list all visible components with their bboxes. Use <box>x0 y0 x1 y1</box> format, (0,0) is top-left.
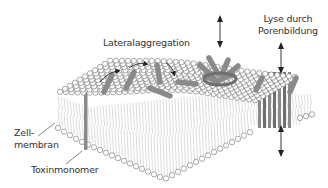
lipid-tail <box>166 99 168 175</box>
lipid-tail <box>214 95 216 149</box>
label-cell-membrane-line2: membran <box>14 139 59 151</box>
lipid-tail <box>181 98 183 167</box>
label-toxin-monomer: Toxinmonomer <box>31 164 99 176</box>
lipid-tail <box>229 93 231 141</box>
lipid-head <box>87 71 92 76</box>
lipid-head <box>107 58 112 63</box>
lipid-head <box>67 133 72 138</box>
lipid-head <box>205 153 210 158</box>
lipid-head <box>115 155 120 160</box>
lipid-tail <box>106 105 108 149</box>
lysis-double-arrow-bottom <box>278 125 284 157</box>
lipid-head <box>211 149 216 154</box>
lipid-tail <box>121 104 123 157</box>
lipid-head <box>223 143 228 148</box>
lipid-head <box>179 60 184 65</box>
lipid-head <box>82 74 87 79</box>
lipid-tail <box>202 96 204 156</box>
lipid-head <box>137 58 142 63</box>
lipid-head <box>257 71 262 76</box>
lipid-tail <box>82 104 84 138</box>
lipid-head <box>127 161 132 166</box>
lipid-head <box>67 83 72 88</box>
lipid-head <box>157 174 162 179</box>
lipid-tail <box>61 97 63 127</box>
label-lateral-aggregation: Lateralaggregation <box>103 37 190 49</box>
lipid-tail <box>187 97 189 164</box>
lipid-head <box>92 68 97 73</box>
lipid-head <box>235 136 240 141</box>
lipid-head <box>151 172 156 177</box>
lipid-head <box>113 58 118 63</box>
toxin-rod <box>157 65 160 82</box>
lipid-head <box>121 158 126 163</box>
lipid-tail <box>136 102 138 163</box>
lipid-head <box>103 150 108 155</box>
lipid-head <box>77 77 82 82</box>
lipid-tail <box>271 94 273 125</box>
lipid-head <box>125 58 130 63</box>
lipid-head <box>163 176 168 181</box>
lipid-tail <box>196 96 198 159</box>
cell-membrane-leader <box>38 123 55 136</box>
lipid-head <box>251 70 256 75</box>
lipid-tail <box>133 103 135 162</box>
lipid-tail <box>151 101 153 170</box>
lysis-double-arrow-top <box>278 42 284 74</box>
lipid-tail <box>142 102 144 166</box>
lipid-head <box>286 74 291 79</box>
lipid-head <box>229 139 234 144</box>
toxin-monomer-leader <box>66 151 82 164</box>
lipid-tail <box>73 101 75 134</box>
lipid-head <box>181 166 186 171</box>
lipid-tail <box>178 98 180 169</box>
lipid-tail <box>205 96 207 155</box>
toxin-monomer-rod <box>84 92 88 150</box>
label-lysis-line1: Lyse durch <box>260 13 316 25</box>
lipid-head <box>297 115 302 120</box>
lipid-tail <box>211 95 213 151</box>
lipid-tail <box>64 98 66 129</box>
lipid-tail <box>127 103 129 159</box>
lipid-tail <box>157 100 159 172</box>
lipid-head <box>217 146 222 151</box>
lipid-head <box>97 147 102 152</box>
lipid-head <box>173 59 178 64</box>
lipid-tail <box>118 104 120 155</box>
lipid-tail <box>169 99 171 174</box>
lipid-head <box>55 125 60 130</box>
lipid-tail <box>130 103 132 161</box>
lipid-head <box>61 129 66 134</box>
lipid-head <box>193 159 198 164</box>
lipid-head <box>91 145 96 150</box>
lipid-tail <box>172 99 174 172</box>
lipid-tail <box>112 105 114 153</box>
lipid-head <box>185 60 190 65</box>
lipid-head <box>145 169 150 174</box>
lipid-head <box>241 133 246 138</box>
lipid-tail <box>139 102 141 164</box>
lipid-head <box>303 114 308 119</box>
lipid-tail <box>223 94 225 144</box>
lipid-head <box>167 59 172 64</box>
lipid-head <box>245 69 250 74</box>
lipid-tail <box>148 101 150 168</box>
lipid-tail <box>109 105 111 151</box>
lipid-tail <box>292 94 294 125</box>
lipid-tail <box>175 99 177 171</box>
lipid-tail <box>208 95 210 152</box>
lipid-tail <box>226 93 228 142</box>
lipid-tail <box>163 100 165 176</box>
lipid-tail <box>220 94 222 146</box>
lipid-tail <box>79 103 81 137</box>
lipid-tail <box>100 106 102 147</box>
lipid-head <box>119 58 124 63</box>
lipid-tail <box>193 97 195 161</box>
lipid-head <box>72 80 77 85</box>
lipid-head <box>199 156 204 161</box>
lipid-head <box>57 89 62 94</box>
lipid-head <box>62 86 67 91</box>
lipid-head <box>79 139 84 144</box>
label-cell-membrane-line1: Zell- <box>14 127 34 139</box>
lipid-head <box>109 153 114 158</box>
